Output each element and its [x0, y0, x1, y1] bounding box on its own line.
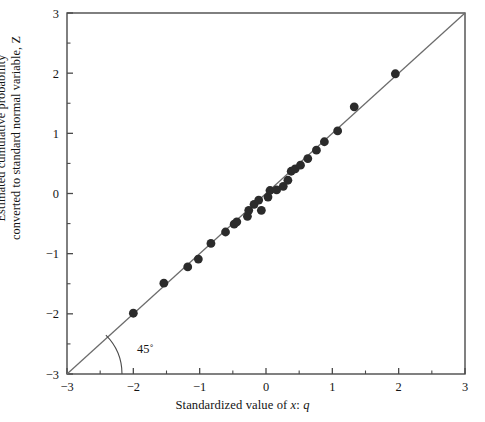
x-tick-label-3: 0: [263, 380, 269, 394]
x-axis-label-var-q: q: [303, 398, 309, 412]
x-tick-label-2: −1: [193, 380, 206, 394]
data-point: [183, 263, 192, 272]
x-axis-label-prefix: Standardized value of: [175, 398, 290, 412]
y-tick-label-5: 2: [53, 67, 59, 81]
normal-probability-plot-figure: −3−2−10123−3−2−1012345˚ Estimated cumula…: [0, 0, 485, 422]
data-point: [194, 255, 203, 264]
data-point: [296, 161, 305, 170]
y-tick-label-1: −2: [46, 307, 59, 321]
data-point: [312, 146, 321, 155]
plot-canvas: −3−2−10123−3−2−1012345˚: [0, 0, 485, 422]
x-tick-label-6: 3: [462, 380, 468, 394]
y-tick-label-2: −1: [46, 247, 59, 261]
x-tick-label-4: 1: [329, 380, 335, 394]
y-tick-label-6: 3: [53, 7, 59, 21]
x-tick-label-1: −2: [127, 380, 140, 394]
data-point: [254, 196, 263, 205]
data-point: [221, 228, 230, 237]
data-point: [257, 206, 266, 215]
data-point: [303, 154, 312, 163]
data-point: [283, 176, 292, 185]
data-point: [391, 69, 400, 78]
x-tick-label-5: 2: [396, 380, 402, 394]
data-point: [320, 137, 329, 146]
x-axis-label: Standardized value of x: q: [0, 398, 485, 413]
angle-arc-45deg: [106, 335, 122, 374]
y-tick-label-0: −3: [46, 368, 59, 382]
data-point: [129, 309, 138, 318]
data-point: [159, 279, 168, 288]
data-point: [333, 127, 342, 136]
x-tick-label-0: −3: [60, 380, 73, 394]
data-point: [350, 102, 359, 111]
y-tick-label-3: 0: [53, 187, 59, 201]
data-point: [207, 239, 216, 248]
annotation-angle-label: 45˚: [137, 342, 154, 356]
data-point: [232, 217, 241, 226]
y-tick-label-4: 1: [53, 127, 59, 141]
